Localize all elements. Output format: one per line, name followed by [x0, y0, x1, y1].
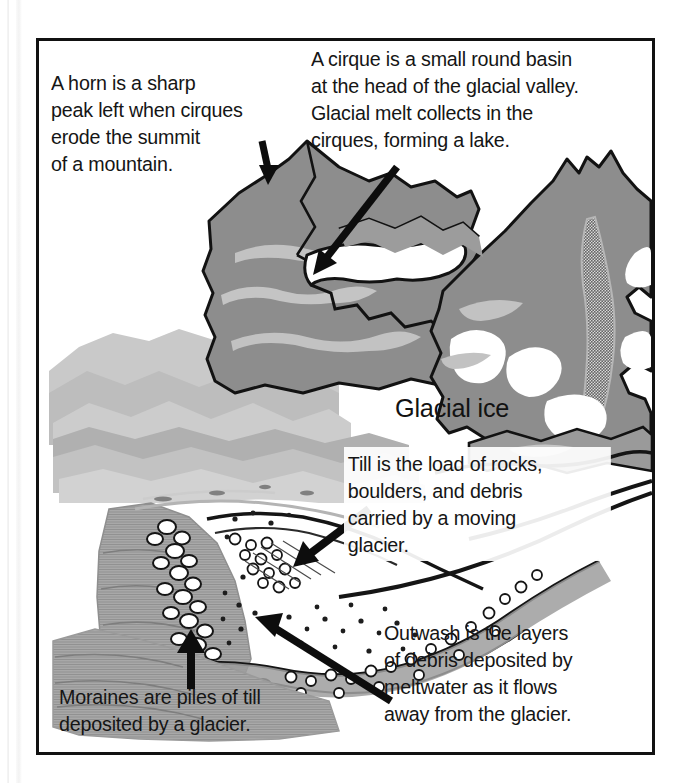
- caption-outwash: Outwash is the layers of debris deposite…: [384, 619, 638, 727]
- scanned-page: A horn is a sharp peak left when cirques…: [0, 0, 689, 783]
- page-edge-shadow-2: [16, 0, 22, 783]
- page-edge-shadow: [7, 0, 9, 783]
- caption-till: Till is the load of rocks, boulders, and…: [344, 447, 611, 561]
- diagram-frame: A horn is a sharp peak left when cirques…: [36, 38, 655, 755]
- caption-moraine: Moraines are piles of till deposited by …: [59, 683, 347, 737]
- label-glacial-ice: Glacial ice: [395, 393, 509, 423]
- caption-cirque: A cirque is a small round basin at the h…: [311, 45, 628, 153]
- caption-horn: A horn is a sharp peak left when cirques…: [51, 69, 291, 177]
